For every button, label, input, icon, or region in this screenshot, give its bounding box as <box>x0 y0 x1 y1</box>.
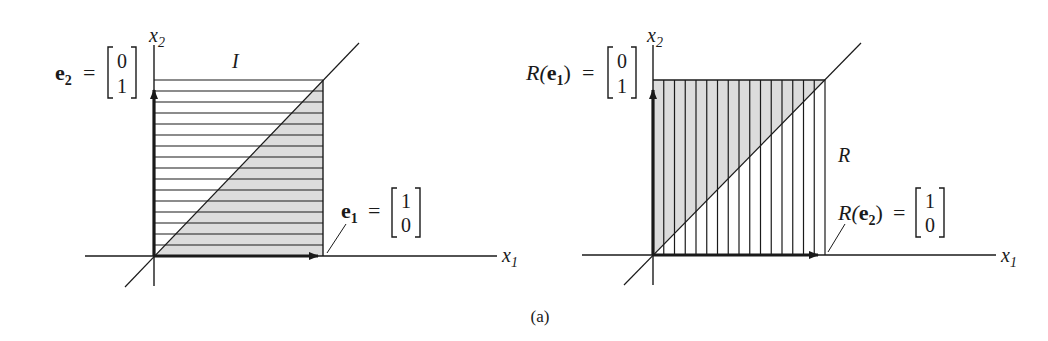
left-x2-label: x2 <box>148 24 165 50</box>
svg-text:1: 1 <box>925 190 935 212</box>
svg-text:1: 1 <box>617 75 627 97</box>
reflection-figure: x2 x1 I e2 = 0 1 e1 = 1 0 <box>0 0 1048 341</box>
right-re1-label: R(e1) = 0 1 <box>525 47 636 98</box>
left-panel: x2 x1 I e2 = 0 1 e1 = 1 0 <box>55 24 518 287</box>
left-e1-leader <box>327 224 346 253</box>
left-e2-bracket-right <box>131 47 136 98</box>
svg-text:=: = <box>582 60 594 85</box>
left-region-label: I <box>231 50 240 72</box>
svg-text:R(e2): R(e2) <box>837 200 883 228</box>
left-e2-bracket-left <box>108 47 113 98</box>
right-re1-bracket-right <box>631 47 636 98</box>
svg-text:0: 0 <box>117 50 127 72</box>
svg-text:1: 1 <box>401 190 411 212</box>
right-x2-label: x2 <box>646 24 663 50</box>
svg-text:e1: e1 <box>341 198 358 226</box>
svg-text:e2: e2 <box>55 60 72 88</box>
right-panel: x2 x1 R R(e1) = 0 1 R(e2) = 1 0 <box>525 24 1017 285</box>
figure-canvas: x2 x1 I e2 = 0 1 e1 = 1 0 <box>0 0 1048 341</box>
right-region-label: R <box>837 144 850 166</box>
left-e1-bracket-left <box>392 188 397 237</box>
figure-caption: (a) <box>531 307 550 326</box>
left-x1-label: x1 <box>501 244 518 270</box>
right-re2-bracket-right <box>939 188 944 237</box>
svg-text:=: = <box>83 60 95 85</box>
svg-text:0: 0 <box>401 214 411 236</box>
right-re2-bracket-left <box>916 188 921 237</box>
svg-text:1: 1 <box>117 75 127 97</box>
right-re2-leader <box>828 224 845 252</box>
left-e1-label: e1 = 1 0 <box>341 188 420 237</box>
right-re1-bracket-left <box>608 47 613 98</box>
left-e1-bracket-right <box>415 188 420 237</box>
svg-text:0: 0 <box>925 214 935 236</box>
left-e2-label: e2 = 0 1 <box>55 47 136 98</box>
svg-text:R(e1): R(e1) <box>525 60 571 88</box>
svg-text:0: 0 <box>617 50 627 72</box>
svg-text:=: = <box>368 198 380 223</box>
right-re2-label: R(e2) = 1 0 <box>837 188 944 237</box>
right-x1-label: x1 <box>1000 244 1017 270</box>
svg-text:=: = <box>893 200 905 225</box>
